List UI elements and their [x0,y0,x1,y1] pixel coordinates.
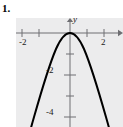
problem-number: 1. [2,3,10,14]
figure-page: 1. [0,0,123,127]
x-tick-label-neg2: -2 [19,38,27,47]
plot-canvas [16,18,123,127]
x-tick-label-pos2: 2 [101,38,106,47]
parabola-figure: -2 2 -2 -4 y [16,18,123,127]
y-tick-label-neg2: -2 [46,66,54,75]
y-tick-label-neg4: -4 [46,108,54,117]
y-axis-label: y [73,15,77,24]
